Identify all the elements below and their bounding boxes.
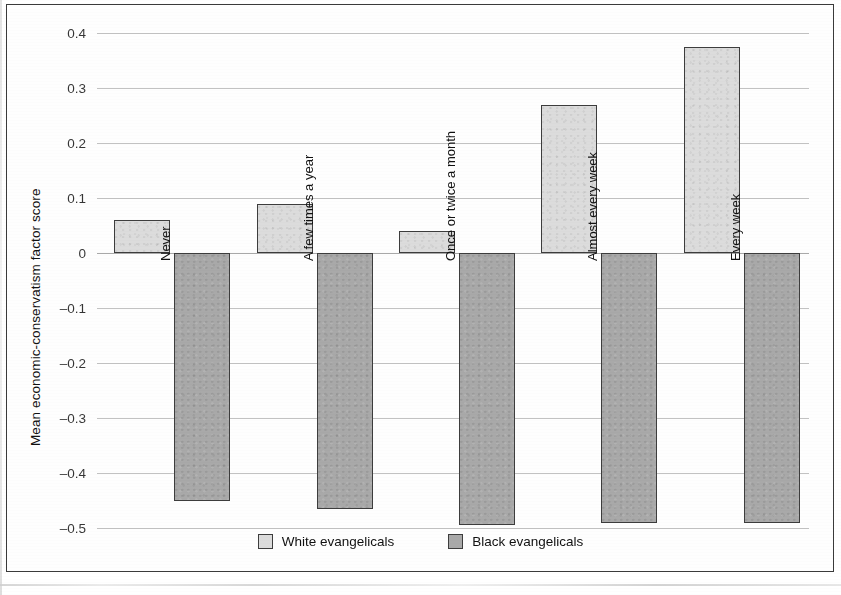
bar	[744, 253, 800, 523]
bar	[174, 253, 230, 501]
legend-label: Black evangelicals	[472, 534, 583, 549]
chart-legend: White evangelicalsBlack evangelicals	[0, 534, 841, 549]
category-label: A few times a year	[301, 155, 316, 261]
y-tick-label: –0.2	[60, 356, 86, 371]
chart-figure: Mean economic-conservatism factor score …	[0, 0, 841, 595]
bar	[317, 253, 373, 509]
bar-group	[684, 33, 800, 528]
y-tick-label: 0.4	[67, 26, 86, 41]
y-tick-label: 0.2	[67, 136, 86, 151]
y-tick-label: 0.3	[67, 81, 86, 96]
bar-group	[541, 33, 657, 528]
bar	[459, 253, 515, 525]
gridline: –0.5	[97, 528, 809, 529]
category-label: Never	[158, 226, 173, 261]
legend-item: White evangelicals	[258, 534, 395, 549]
y-tick-label: –0.3	[60, 411, 86, 426]
y-tick-label: 0.1	[67, 191, 86, 206]
category-label: Once or twice a month	[443, 131, 458, 261]
legend-item: Black evangelicals	[448, 534, 583, 549]
bar-group	[257, 33, 373, 528]
y-tick-label: 0	[78, 246, 86, 261]
category-label: Every week	[728, 194, 743, 261]
category-label: Almost every week	[585, 152, 600, 261]
legend-swatch-icon	[258, 534, 273, 549]
legend-swatch-icon	[448, 534, 463, 549]
y-axis-title-container: Mean economic-conservatism factor score	[0, 0, 60, 568]
y-tick-label: –0.1	[60, 301, 86, 316]
scan-edge-bottom	[0, 584, 841, 586]
y-tick-label: –0.4	[60, 466, 86, 481]
bar	[601, 253, 657, 523]
y-axis-title: Mean economic-conservatism factor score	[28, 116, 43, 446]
bar-group	[114, 33, 230, 528]
legend-label: White evangelicals	[282, 534, 395, 549]
bar-group	[399, 33, 515, 528]
plot-area: 0.40.30.20.10–0.1–0.2–0.3–0.4–0.5 NeverA…	[97, 33, 809, 528]
